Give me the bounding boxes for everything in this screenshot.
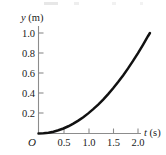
graph-figure: 1.0 0.8 0.6 0.4 0.2 0.5 1.0 1.5 2.0 O y …: [0, 0, 166, 155]
y-tick-label: 0.8: [22, 48, 35, 59]
y-axis-title-unit: (m): [26, 12, 44, 24]
x-axis-title-unit: (s): [147, 127, 161, 139]
y-tick-label: 0.6: [22, 68, 35, 79]
data-curve: [39, 33, 150, 134]
x-tick-label: 1.5: [107, 137, 120, 148]
plot-area: 1.0 0.8 0.6 0.4 0.2 0.5 1.0 1.5 2.0 O y …: [0, 0, 166, 155]
x-tick-label: 0.5: [57, 137, 70, 148]
origin-label: O: [28, 136, 36, 148]
y-tick-label: 0.4: [22, 88, 36, 99]
y-tick-label: 1.0: [22, 28, 35, 39]
y-axis-title: y (m): [20, 12, 44, 24]
y-tick-label: 0.2: [22, 108, 35, 119]
x-axis-title: t (s): [144, 127, 161, 139]
x-tick-label: 1.0: [82, 137, 95, 148]
x-tick-label: 2.0: [131, 137, 144, 148]
